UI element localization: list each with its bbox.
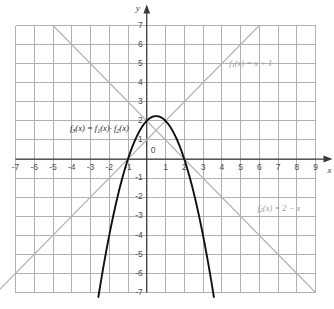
curve-label-f3-tail: (x) xyxy=(119,123,129,133)
y-tick-label--7: -7 xyxy=(135,287,143,297)
y-tick-label-3: 3 xyxy=(138,96,143,106)
x-tick-label-8: 8 xyxy=(294,162,299,172)
x-tick-label-6: 6 xyxy=(257,162,262,172)
y-tick-label-1: 1 xyxy=(138,134,143,144)
y-axis-tick-labels: 7654321-1-2-3-4-5-6-7 xyxy=(135,20,143,297)
x-tick-label-1: 1 xyxy=(163,162,168,172)
x-tick-label-5: 5 xyxy=(238,162,243,172)
curve-label-f2: f2(x) = 2 − x xyxy=(257,203,300,214)
x-axis-label: x xyxy=(327,165,332,175)
curve-label-f1-rest: (x) = x + 1 xyxy=(235,58,272,68)
y-tick-label--5: -5 xyxy=(135,249,143,259)
curve-label-f3-rest: (x) = f xyxy=(75,123,98,133)
y-tick-label-5: 5 xyxy=(138,58,143,68)
y-tick-label-4: 4 xyxy=(138,77,143,87)
x-tick-label--5: -5 xyxy=(49,162,57,172)
x-tick-label-3: 3 xyxy=(201,162,206,172)
x-tick-label--6: -6 xyxy=(30,162,38,172)
x-tick-label--3: -3 xyxy=(87,162,95,172)
y-tick-label--1: -1 xyxy=(135,172,143,182)
y-tick-label--2: -2 xyxy=(135,191,143,201)
curve-f3-parabola xyxy=(98,116,214,297)
curve-label-f3-mid: (x)· f xyxy=(100,123,118,133)
curve-label-f1: f1(x) = x + 1 xyxy=(229,58,272,69)
graph-canvas: -7-6-5-4-3-2-1123456789 7654321-1-2-3-4-… xyxy=(0,0,334,309)
x-tick-label--4: -4 xyxy=(68,162,76,172)
x-axis-tick-labels: -7-6-5-4-3-2-1123456789 xyxy=(12,162,318,172)
function-graph-figure: -7-6-5-4-3-2-1123456789 7654321-1-2-3-4-… xyxy=(0,0,334,309)
curve-label-f2-rest: (x) = 2 − x xyxy=(263,203,301,213)
x-tick-label--2: -2 xyxy=(105,162,113,172)
y-tick-label--4: -4 xyxy=(135,230,143,240)
y-tick-label-6: 6 xyxy=(138,39,143,49)
y-tick-label-7: 7 xyxy=(138,20,143,30)
y-axis-label: y xyxy=(135,3,140,13)
y-tick-label--6: -6 xyxy=(135,268,143,278)
origin-label: 0 xyxy=(151,145,156,155)
x-tick-label-9: 9 xyxy=(313,162,318,172)
curve-label-f3: f3(x) = f1(x)· f2(x) xyxy=(70,123,129,134)
x-tick-label-4: 4 xyxy=(219,162,224,172)
y-axis-arrow-icon xyxy=(143,5,150,14)
x-tick-label-7: 7 xyxy=(276,162,281,172)
y-tick-label--3: -3 xyxy=(135,210,143,220)
x-tick-label--7: -7 xyxy=(12,162,20,172)
x-axis-arrow-icon xyxy=(324,156,333,163)
